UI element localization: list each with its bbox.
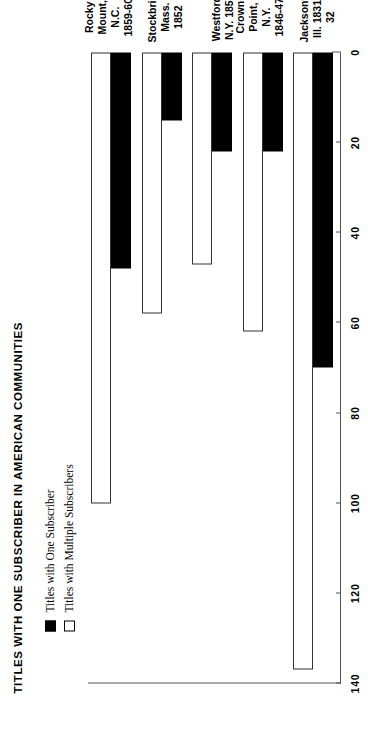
axis-tick xyxy=(336,321,341,322)
bar-one-subscriber xyxy=(162,52,182,120)
category-label: Jacksonville, Ill. 1831-32 xyxy=(298,0,337,42)
bar-multiple-subscribers xyxy=(91,52,111,503)
axis-tick xyxy=(336,412,341,413)
axis-tick-label: 120 xyxy=(349,583,361,603)
legend-label-multiple-subscribers: Titles with Multiple Subscribers xyxy=(63,464,75,612)
bar-multiple-subscribers xyxy=(142,52,162,313)
axis-tick-label: 20 xyxy=(349,136,361,149)
legend-item-multiple-subscribers: Titles with Multiple Subscribers xyxy=(63,464,75,631)
bar-one-subscriber xyxy=(263,52,283,151)
bar-one-subscriber xyxy=(313,52,333,368)
bar-multiple-subscribers xyxy=(293,52,313,669)
axis-tick-label: 80 xyxy=(349,406,361,419)
value-axis-line xyxy=(340,52,341,683)
axis-tick-label: 100 xyxy=(349,493,361,513)
bar-multiple-subscribers xyxy=(243,52,263,331)
legend-swatch-white-square xyxy=(64,620,75,631)
bar-one-subscriber xyxy=(212,52,232,151)
axis-tick xyxy=(336,141,341,142)
category-label: Westford, N.Y. 1850 xyxy=(210,0,236,42)
axis-tick xyxy=(336,682,341,683)
axis-tick-label: 60 xyxy=(349,316,361,329)
chart-title: TITLES WITH ONE SUBSCRIBER IN AMERICAN C… xyxy=(12,322,24,693)
axis-tick xyxy=(336,502,341,503)
axis-tick xyxy=(336,231,341,232)
legend-item-one-subscriber: Titles with One Subscriber xyxy=(44,464,56,631)
category-axis-line xyxy=(88,682,341,683)
legend-label-one-subscriber: Titles with One Subscriber xyxy=(44,489,56,612)
category-label: Rocky Mount, N.C. 1859-60 xyxy=(83,0,135,42)
category-label: Crown Point, N.Y. 1846-47 xyxy=(234,0,286,42)
chart-figure: TITLES WITH ONE SUBSCRIBER IN AMERICAN C… xyxy=(0,0,368,751)
axis-tick xyxy=(336,592,341,593)
axis-tick-label: 0 xyxy=(349,49,361,56)
chart-legend: Titles with One Subscriber Titles with M… xyxy=(44,464,82,631)
bar-one-subscriber xyxy=(111,52,131,268)
axis-tick-label: 140 xyxy=(349,673,361,693)
category-label: Stockbridge, Mass. 1852 xyxy=(146,0,185,42)
legend-swatch-black-square xyxy=(45,620,56,631)
plot-area: 140120100806040200Jacksonville, Ill. 183… xyxy=(88,52,341,683)
bar-multiple-subscribers xyxy=(192,52,212,264)
axis-tick-label: 40 xyxy=(349,226,361,239)
